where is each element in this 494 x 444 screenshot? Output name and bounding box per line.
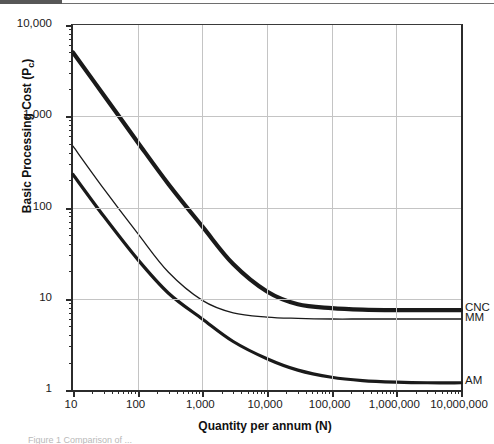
y-axis-tick-minor: [69, 34, 73, 35]
x-axis-tick-minor: [157, 390, 158, 394]
x-axis-tick-minor: [306, 390, 307, 394]
x-axis-tick-minor: [312, 390, 313, 394]
y-axis-tick-minor: [69, 89, 73, 90]
y-axis-tick-minor: [69, 164, 73, 165]
x-axis-tick-minor: [435, 390, 436, 394]
x-axis-tick-minor: [118, 390, 119, 394]
figure-caption-sliver: Figure 1 Comparison of ...: [28, 436, 328, 444]
x-axis-tick-minor: [451, 390, 452, 394]
x-axis-tick-minor: [177, 390, 178, 394]
x-axis-tick-minor: [183, 390, 184, 394]
y-axis-tick-minor: [69, 244, 73, 245]
y-axis-tick-major: [66, 390, 73, 392]
y-axis-tick-minor: [69, 326, 73, 327]
x-axis-tick-minor: [123, 390, 124, 394]
y-axis-tick-minor: [69, 153, 73, 154]
x-axis-tick-minor: [199, 390, 200, 394]
x-axis-tick-minor: [371, 390, 372, 394]
x-axis-tick-major: [461, 390, 463, 397]
x-axis-tick-minor: [458, 390, 459, 394]
x-axis-tick-labels: 101001,00010,000100,0001,000,00010,000,0…: [0, 399, 494, 415]
y-axis-tick-minor: [69, 319, 73, 320]
x-axis-tick-minor: [286, 390, 287, 394]
x-axis-tick-minor: [377, 390, 378, 394]
y-axis-tick-minor: [69, 216, 73, 217]
y-axis-tick-minor: [69, 120, 73, 121]
x-axis-tick-major: [202, 390, 204, 397]
x-axis-tick-minor: [169, 390, 170, 394]
y-axis-tick-minor: [69, 308, 73, 309]
y-axis-tick-major: [66, 299, 73, 301]
y-axis-tick-minor: [69, 45, 73, 46]
x-axis-tick-minor: [322, 390, 323, 394]
x-axis-tick-minor: [351, 390, 352, 394]
x-axis-tick-minor: [257, 390, 258, 394]
x-axis-tick-minor: [135, 390, 136, 394]
gridline-horizontal: [73, 299, 461, 300]
x-axis-tick-minor: [427, 390, 428, 394]
x-axis-tick-minor: [233, 390, 234, 394]
y-axis-tick-minor: [69, 235, 73, 236]
x-axis-tick-minor: [92, 390, 93, 394]
y-axis-title-subscript: c: [26, 63, 36, 68]
page-top-rule: [0, 3, 494, 4]
x-axis-tick-minor: [112, 390, 113, 394]
x-axis-tick-minor: [382, 390, 383, 394]
gridline-horizontal: [73, 208, 461, 209]
x-axis-tick-minor: [325, 390, 326, 394]
y-axis-tick-minor: [69, 212, 73, 213]
x-axis-tick-minor: [390, 390, 391, 394]
y-axis-tick-minor: [69, 346, 73, 347]
x-axis-tick-minor: [329, 390, 330, 394]
y-axis-tick-minor: [69, 29, 73, 30]
y-axis-tick-minor: [69, 180, 73, 181]
figure-log-log-cost-chart: 1101001,00010,000 Basic Processing Cost …: [0, 0, 494, 444]
x-axis-tick-minor: [264, 390, 265, 394]
y-axis-tick-minor: [69, 144, 73, 145]
y-axis-tick-minor: [69, 303, 73, 304]
x-axis-tick-minor: [298, 390, 299, 394]
x-axis-tick-label: 1,000,000: [369, 399, 420, 411]
y-axis-tick-minor: [69, 73, 73, 74]
x-axis-tick-major: [332, 390, 334, 397]
x-axis-tick-minor: [188, 390, 189, 394]
plot-area: [71, 24, 463, 392]
y-axis-tick-minor: [69, 125, 73, 126]
y-axis-tick-minor: [69, 335, 73, 336]
x-axis-tick-major: [267, 390, 269, 397]
x-axis-tick-minor: [416, 390, 417, 394]
y-axis-tick-minor: [69, 52, 73, 53]
x-axis-tick-major: [138, 390, 140, 397]
x-axis-tick-minor: [222, 390, 223, 394]
y-axis-tick-minor: [69, 313, 73, 314]
x-axis-tick-minor: [196, 390, 197, 394]
x-axis-tick-minor: [248, 390, 249, 394]
x-axis-tick-minor: [253, 390, 254, 394]
y-axis-tick-minor: [69, 271, 73, 272]
x-axis-tick-minor: [192, 390, 193, 394]
x-axis-tick-label: 10,000,000: [430, 399, 488, 411]
x-axis-tick-minor: [131, 390, 132, 394]
y-axis-tick-minor: [69, 61, 73, 62]
y-axis-tick-label: 10: [0, 292, 62, 304]
x-axis-tick-label: 100,000: [309, 399, 351, 411]
gridline-horizontal: [73, 116, 461, 117]
y-axis-tick-major: [66, 116, 73, 118]
y-axis-tick-minor: [69, 136, 73, 137]
x-axis-tick-minor: [363, 390, 364, 394]
x-axis-tick-minor: [317, 390, 318, 394]
y-axis-tick-minor: [69, 255, 73, 256]
x-axis-tick-label: 10,000: [247, 399, 282, 411]
y-axis-tick-minor: [69, 222, 73, 223]
x-axis-tick-minor: [104, 390, 105, 394]
y-axis-tick-label: 10,000: [0, 18, 62, 30]
y-axis-tick-minor: [69, 228, 73, 229]
x-axis-tick-minor: [393, 390, 394, 394]
x-axis-title: Quantity per annum (N): [71, 419, 459, 433]
x-axis-tick-major: [73, 390, 75, 397]
x-axis-tick-label: 1,000: [186, 399, 215, 411]
x-axis-tick-minor: [386, 390, 387, 394]
plot-inner: [73, 25, 461, 390]
y-axis-tick-major: [66, 208, 73, 210]
x-axis-tick-minor: [241, 390, 242, 394]
